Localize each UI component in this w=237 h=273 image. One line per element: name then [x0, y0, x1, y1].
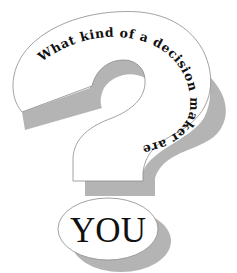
question-mark-dot: YOU [58, 198, 158, 260]
you-label: YOU [70, 211, 146, 250]
question-mark-svg: What kind of a decision maker are YOU [0, 0, 237, 273]
question-mark-graphic: What kind of a decision maker are YOU [0, 0, 237, 273]
